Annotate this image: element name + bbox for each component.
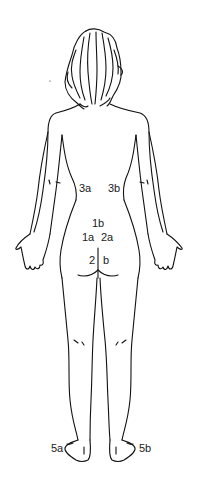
label-5b: 5b [139,443,151,454]
label-2a: 2a [101,232,113,243]
feet-outline [65,440,135,462]
arms-outline [16,81,182,270]
label-b: b [103,255,109,266]
hair-icon [65,29,122,109]
label-5a: 5a [51,443,63,454]
label-2: 2 [89,255,95,266]
label-1b: 1b [92,218,104,229]
torso-outline [34,104,163,278]
label-3a: 3a [79,183,91,194]
label-3b: 3b [108,183,120,194]
label-1a: 1a [82,232,94,243]
legs-outline [62,278,138,440]
